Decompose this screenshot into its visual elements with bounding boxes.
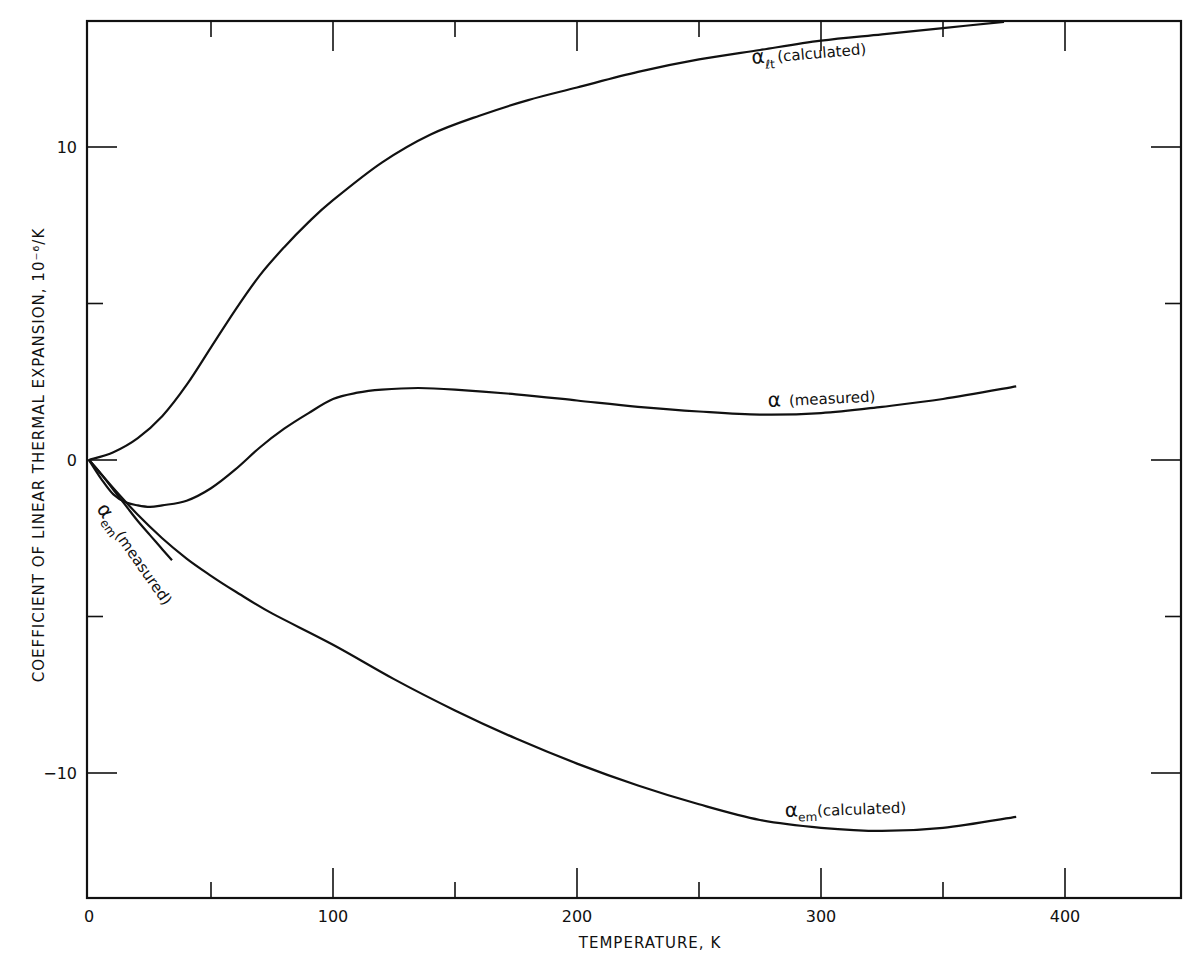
data-curves [89, 22, 1016, 831]
curve-alpha-em-calculated [89, 460, 1016, 831]
x-tick-label: 100 [318, 907, 349, 926]
x-tick-label: 200 [562, 907, 593, 926]
y-tick-label: 10 [57, 138, 77, 157]
x-tick-label: 400 [1050, 907, 1081, 926]
axis-ticks [87, 21, 1181, 898]
curve-label-alpha-em-calculated: αem(calculated) [784, 794, 906, 825]
y-tick-label: −10 [43, 764, 77, 783]
x-tick-label: 0 [84, 907, 94, 926]
curve-label-alpha-measured: α(measured) [767, 382, 876, 412]
curve-label-alpha-lt-calculated: αℓt(calculated) [750, 35, 867, 73]
y-tick-label: 0 [67, 451, 77, 470]
plot-frame [87, 21, 1181, 898]
x-axis-label: TEMPERATURE, K [578, 934, 722, 952]
x-tick-label: 300 [806, 907, 837, 926]
y-axis-label: COEFFICIENT OF LINEAR THERMAL EXPANSION,… [30, 228, 48, 683]
thermal-expansion-chart: 0100200300400−10010 TEMPERATURE, K COEFF… [0, 0, 1204, 966]
curve-alpha-measured [89, 386, 1016, 507]
axis-tick-labels: 0100200300400−10010 [43, 138, 1080, 926]
